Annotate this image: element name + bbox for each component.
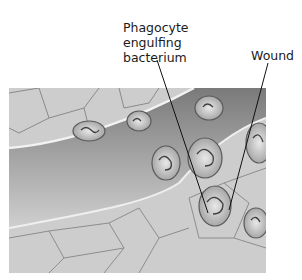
label-line: Wound: [251, 48, 294, 63]
label-line: bacterium: [123, 50, 189, 65]
tissue-drawing: [9, 88, 266, 273]
label-wound: Wound: [251, 48, 294, 63]
tissue-illustration: [9, 88, 266, 273]
label-line: Phagocyte: [123, 20, 189, 35]
label-phagocyte-engulfing-bacterium: Phagocyte engulfing bacterium: [123, 20, 189, 65]
label-line: engulfing: [123, 35, 189, 50]
